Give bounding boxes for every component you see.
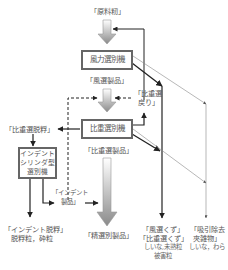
- flow-arrow-final: [97, 158, 117, 226]
- waste-output: 「風選くず」 「比重選くず」 しいな,未熟粒 被害粒: [136, 225, 190, 261]
- indent-line2: シリンダ型: [20, 159, 55, 168]
- input-label: 「原料籾」: [89, 7, 125, 16]
- indent-cylinder-separator-box: インデント シリンダ型 選別機: [18, 147, 57, 179]
- suction-line1: 「吸引除去: [186, 225, 228, 234]
- indent-product-label: 「インデント 製品」: [52, 189, 88, 207]
- gravity-return-label: 「比重選 戻り」: [130, 89, 166, 107]
- rice-sorting-flow-diagram: 「原料籾」 風力選別機 「風選製品」 「比重選 戻り」 比重選別機 「比重選製品…: [0, 0, 228, 270]
- gravity-waste-arrow: [132, 134, 160, 151]
- suction-output: 「吸引除去 夾雑物」 しいな，わら: [186, 225, 228, 252]
- waste-line2: 「比重選くず」: [136, 234, 190, 243]
- indent-hulled-output: 「インデント脱粰」 脱粰粒，砕粒: [4, 225, 60, 243]
- indent-hulled-line2: 脱粰粒，砕粒: [4, 234, 60, 243]
- indent-hulled-line1: 「インデント脱粰」: [4, 225, 60, 234]
- waste-line1: 「風選くず」: [136, 225, 190, 234]
- wind-separator-box: 風力選別機: [81, 50, 133, 70]
- gravity-product-label: 「比重選製品」: [82, 146, 134, 155]
- wind-product-label: 「風選製品」: [84, 76, 130, 85]
- gravity-return-line2: 戻り」: [130, 98, 166, 107]
- gravity-return-line1: 「比重選: [130, 89, 166, 98]
- suction-line2: 夾雑物」: [186, 234, 228, 243]
- suction-line3: しいな，わら: [186, 243, 228, 252]
- waste-line4: 被害粒: [136, 252, 190, 261]
- wind-separator-label: 風力選別機: [90, 55, 125, 65]
- gravity-suction-line: [133, 129, 206, 183]
- wind-waste-arrow: [132, 63, 162, 86]
- final-product-label: 「精選別製品」: [80, 231, 136, 240]
- gravity-separator-label: 比重選別機: [90, 124, 125, 134]
- indent-product-line2: 製品」: [52, 198, 88, 207]
- indent-line3: 選別機: [27, 168, 48, 177]
- waste-line3: しいな,未熟粒: [136, 243, 190, 252]
- flow-arrow-input: [98, 20, 116, 44]
- gravity-return-arrow: [132, 113, 144, 125]
- gravity-hulled-label: 「比重選脱粰」: [5, 125, 54, 134]
- indent-product-line1: 「インデント: [52, 189, 88, 198]
- gravity-separator-box: 比重選別機: [81, 119, 133, 139]
- flow-arrow-wind-product: [98, 89, 116, 112]
- indent-line1: インデント: [20, 150, 55, 159]
